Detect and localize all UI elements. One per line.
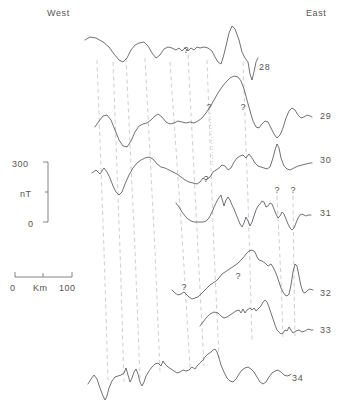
correlation-line (126, 58, 140, 378)
profile-plot-canvas: ???????? (0, 0, 353, 420)
magnetic-profile-figure: West East 300 nT 0 0 Km 100 ???????? 282… (0, 0, 353, 420)
uncertainty-marker: ? (203, 174, 208, 184)
uncertainty-marker: ? (235, 271, 240, 281)
uncertainty-marker: ? (206, 102, 211, 112)
profile-label-33: 33 (320, 325, 332, 335)
profile-trace-32 (172, 250, 313, 299)
profile-label-32: 32 (320, 288, 332, 298)
vertical-scale-bar (43, 162, 48, 222)
east-orientation-label: East (306, 8, 326, 18)
profile-trace-29 (95, 76, 312, 147)
correlation-line (145, 58, 160, 372)
profile-label-31: 31 (320, 208, 332, 218)
uncertainty-marker: ? (181, 282, 186, 292)
profile-label-29: 29 (320, 111, 332, 121)
correlation-line (97, 60, 108, 380)
uncertainty-marker: ? (290, 185, 295, 195)
profile-label-28: 28 (259, 62, 271, 72)
uncertainty-markers-group: ???????? (181, 45, 295, 292)
profile-label-34: 34 (292, 373, 304, 383)
vertical-scale-unit-label: nT (20, 189, 32, 199)
profile-trace-28 (85, 26, 258, 80)
profile-trace-31 (176, 195, 311, 230)
correlation-line (188, 55, 204, 366)
west-orientation-label: West (47, 8, 70, 18)
uncertainty-marker: ? (183, 45, 188, 55)
vertical-scale-top-value: 300 (12, 159, 29, 169)
profile-traces-group (85, 26, 313, 400)
correlation-line (113, 62, 124, 382)
horizontal-scale-left-value: 0 (10, 283, 16, 293)
uncertainty-marker: ? (274, 185, 279, 195)
correlation-lines-group (97, 55, 295, 382)
horizontal-scale-unit-label: Km (33, 283, 48, 293)
correlation-line (170, 62, 190, 368)
horizontal-scale-bar (15, 272, 72, 277)
uncertainty-marker: ? (240, 102, 245, 112)
horizontal-scale-right-value: 100 (59, 283, 76, 293)
profile-label-30: 30 (320, 155, 332, 165)
vertical-scale-bottom-value: 0 (28, 219, 34, 229)
